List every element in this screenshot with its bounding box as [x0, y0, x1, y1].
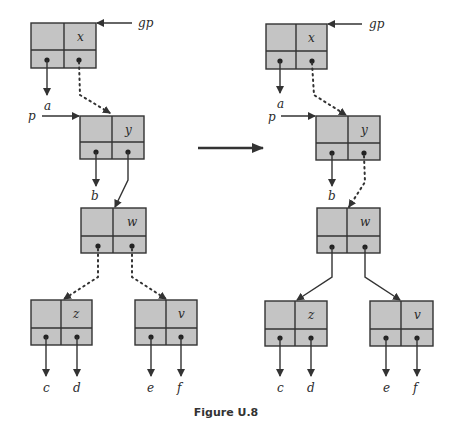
node-z: z [31, 300, 92, 345]
node-x: x [266, 24, 327, 69]
node-label-x: x [77, 30, 84, 44]
node-y: y [316, 116, 380, 160]
leaf-d: d [73, 381, 81, 395]
leaf-b: b [328, 189, 336, 203]
leaf-c: c [43, 381, 50, 395]
node-v: v [135, 300, 197, 345]
node-label-v: v [414, 308, 421, 322]
dotted-link-w-v [132, 249, 166, 299]
node-y: y [80, 116, 144, 159]
node-label-z: z [72, 307, 80, 321]
dotted-link-y-w [349, 156, 365, 207]
leaf-c: c [277, 381, 284, 395]
leaf-b: b [91, 189, 99, 203]
node-label-w: w [127, 215, 138, 229]
link-y-w [115, 152, 128, 207]
link-w-z [297, 247, 332, 300]
node-w: w [317, 208, 380, 253]
leaf-e: e [147, 381, 154, 395]
node-z: z [265, 301, 327, 346]
leaf-e: e [383, 381, 390, 395]
gp-label: gp [138, 16, 154, 30]
before-diagram: x gp a p y b [28, 16, 197, 395]
leaf-d: d [307, 381, 315, 395]
node-x: x [31, 23, 96, 68]
link-w-v [365, 247, 400, 300]
node-label-w: w [360, 215, 371, 229]
node-label-y: y [124, 123, 132, 137]
leaf-f: f [412, 381, 420, 395]
gp-label: gp [369, 17, 385, 31]
after-diagram: x gp a p y b w [265, 17, 433, 395]
dotted-link-w-z [64, 249, 98, 299]
node-v: v [370, 301, 433, 346]
node-w: w [81, 208, 146, 253]
node-label-x: x [308, 31, 315, 45]
node-label-v: v [178, 307, 185, 321]
figure-caption: Figure U.8 [194, 406, 258, 419]
p-label: p [28, 109, 36, 123]
dotted-link-x-y [312, 63, 346, 115]
leaf-a: a [277, 97, 284, 111]
leaf-a: a [44, 99, 51, 113]
p-label: p [268, 110, 276, 124]
node-label-y: y [360, 123, 368, 137]
tree-rotation-diagram: x gp a p y b [0, 0, 452, 434]
dotted-link-x-y [79, 62, 110, 113]
leaf-f: f [176, 381, 184, 395]
node-label-z: z [307, 308, 315, 322]
